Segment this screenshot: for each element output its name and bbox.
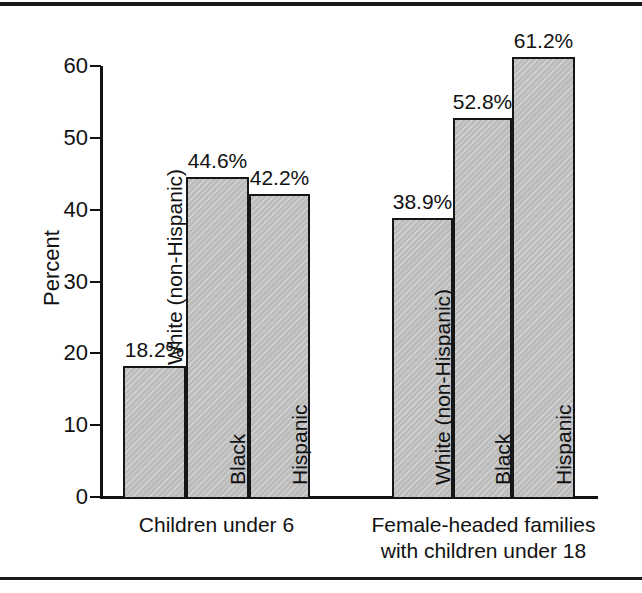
- bar-value-label: 42.2%: [250, 167, 310, 188]
- bar-series-label: Black: [492, 434, 513, 485]
- y-axis-tick: [90, 65, 101, 67]
- y-axis-tick-label: 50: [40, 127, 88, 149]
- y-axis-tick: [90, 352, 101, 354]
- y-axis-tick: [90, 137, 101, 139]
- bar[interactable]: [123, 366, 186, 499]
- y-axis-tick-label: 10: [40, 414, 88, 436]
- bar-series-label: Hispanic: [289, 404, 310, 485]
- bar-series-label: Hispanic: [553, 404, 574, 485]
- group-caption-line-1: Children under 6: [83, 512, 350, 538]
- group-caption-line-2: with children under 18: [352, 538, 615, 564]
- y-axis-tick: [90, 281, 101, 283]
- y-axis-tick: [90, 209, 101, 211]
- y-axis-tick: [90, 424, 101, 426]
- bar-series-label: White (non-Hispanic): [164, 169, 185, 365]
- bar-value-label: 44.6%: [188, 150, 248, 171]
- y-axis-line: [100, 66, 103, 499]
- y-axis-tick-label: 0: [40, 486, 88, 508]
- group-caption: Female-headed familieswith children unde…: [352, 512, 615, 565]
- y-axis-title: Percent: [39, 208, 65, 328]
- y-axis-tick-label: 60: [40, 55, 88, 77]
- bottom-rule: [0, 577, 642, 580]
- bar-chart-plot: 0102030405060 Percent 18.2%White (non-Hi…: [0, 0, 642, 560]
- bar-series-label: Black: [227, 434, 248, 485]
- group-caption-line-1: Female-headed families: [352, 512, 615, 538]
- y-axis-tick-label: 20: [40, 342, 88, 364]
- figure-container: 0102030405060 Percent 18.2%White (non-Hi…: [0, 0, 642, 593]
- group-caption: Children under 6: [83, 512, 350, 538]
- bar-value-label: 61.2%: [514, 30, 574, 51]
- bar-hatch-texture: [125, 368, 184, 497]
- bar-series-label: White (non-Hispanic): [432, 289, 453, 485]
- y-axis-tick: [90, 496, 101, 498]
- bar-value-label: 52.8%: [453, 91, 513, 112]
- bar-value-label: 38.9%: [393, 191, 453, 212]
